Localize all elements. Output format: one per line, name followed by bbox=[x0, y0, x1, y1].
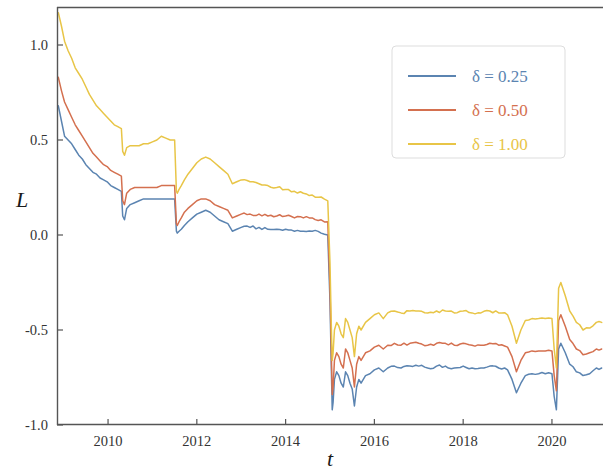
x-tick-label: 2012 bbox=[182, 433, 211, 449]
x-tick-label: 2010 bbox=[94, 433, 123, 449]
legend-label-0: δ = 0.25 bbox=[472, 67, 528, 86]
y-tick-label: -0.5 bbox=[25, 322, 48, 338]
line-chart: 201020122014201620182020 1.00.50.0-0.5-1… bbox=[0, 0, 606, 475]
y-tick-label: 0.5 bbox=[30, 132, 48, 148]
legend: δ = 0.25δ = 0.50δ = 1.00 bbox=[392, 46, 565, 158]
y-tick-label: 1.0 bbox=[30, 37, 48, 53]
x-axis-title: t bbox=[327, 446, 334, 471]
legend-label-1: δ = 0.50 bbox=[472, 101, 528, 120]
y-tick-label: -1.0 bbox=[25, 417, 48, 433]
y-axis-title: L bbox=[15, 187, 28, 212]
x-tick-label: 2020 bbox=[537, 433, 566, 449]
chart-figure: 201020122014201620182020 1.00.50.0-0.5-1… bbox=[0, 0, 606, 475]
x-tick-label: 2016 bbox=[360, 433, 389, 449]
x-tick-label: 2018 bbox=[449, 433, 478, 449]
legend-label-2: δ = 1.00 bbox=[472, 135, 528, 154]
y-tick-label: 0.0 bbox=[30, 227, 48, 243]
x-tick-label: 2014 bbox=[271, 433, 301, 449]
